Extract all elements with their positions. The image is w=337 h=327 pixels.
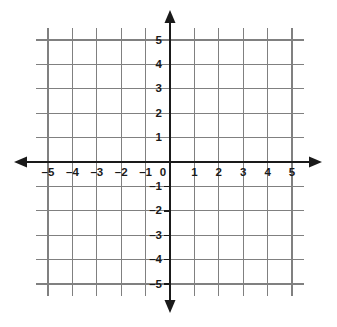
x-axis-tick-label: –2 [115,166,128,178]
x-axis-tick-label: 3 [240,166,246,178]
y-axis-tick-label: 5 [156,34,163,46]
y-axis-tick-label: –3 [149,229,162,241]
graph-background [0,0,337,327]
x-axis-tick-label: –5 [42,166,55,178]
x-axis-tick-label: –4 [66,166,79,178]
x-axis-tick-label: 4 [264,166,271,178]
y-axis-tick-label: 4 [156,58,163,70]
origin-label: 0 [160,166,166,178]
x-axis-tick-label: 2 [216,166,222,178]
x-axis-tick-label: –1 [139,166,152,178]
y-axis-tick-label: –2 [149,204,162,216]
y-axis-tick-label: 2 [156,107,162,119]
y-axis-tick-label: 1 [156,131,163,143]
y-axis-tick-label: –5 [149,278,162,290]
y-axis-tick-label: –1 [149,180,162,192]
y-axis-tick-label: 3 [156,82,162,94]
y-axis-tick-label: –4 [149,253,162,265]
coordinate-plane-graph: –5–4–3–2–112345 54321–1–2–3–4–5 0 [0,0,337,327]
x-axis-tick-label: –3 [90,166,103,178]
x-axis-tick-label: 5 [289,166,296,178]
x-axis-tick-label: 1 [191,166,198,178]
coordinate-plane-svg: –5–4–3–2–112345 54321–1–2–3–4–5 0 [0,0,337,327]
